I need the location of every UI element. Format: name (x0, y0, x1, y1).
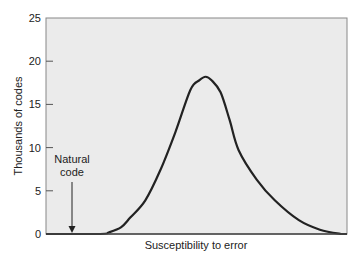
y-tick-label: 10 (29, 142, 41, 154)
y-tick-label: 15 (29, 98, 41, 110)
annotation-line-1: Natural (54, 153, 89, 165)
annotation-line-2: code (60, 166, 84, 178)
y-tick-label: 25 (29, 12, 41, 24)
chart: 0510152025 Natural code Susceptibility t… (0, 0, 359, 263)
x-axis-label: Susceptibility to error (145, 239, 248, 251)
y-tick-label: 20 (29, 55, 41, 67)
plot-area (46, 18, 347, 234)
y-tick-label: 5 (35, 185, 41, 197)
y-tick-label: 0 (35, 228, 41, 240)
y-axis-label: Thousands of codes (12, 76, 24, 176)
